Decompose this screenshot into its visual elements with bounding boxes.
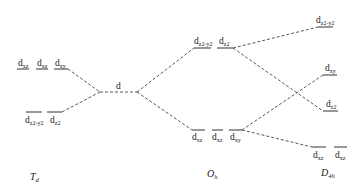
label-td-upper-2: dxz xyxy=(37,58,48,69)
label-free-d: d xyxy=(116,81,121,91)
td-lower-levels: dz2-y2 dz2 xyxy=(25,112,62,126)
oh-upper-levels: dz2-y2 dz2 xyxy=(194,36,233,48)
label-d4h-bottom-1: dxz xyxy=(313,150,324,161)
label-td-lower-1: dz2-y2 xyxy=(25,115,43,126)
d4h-levels: dz2-y2 dxy dz2 dxz dxz xyxy=(312,15,347,161)
label-d4h-mid2: dz2 xyxy=(326,99,336,110)
splitting-diagram: dxz dxz dxy dz2-y2 dz2 d dz2-y2 dz2 dxz … xyxy=(0,0,361,191)
group-label-oh: Oh xyxy=(207,168,217,180)
connector-free-oh-lower xyxy=(137,92,192,130)
free-ion-level: d xyxy=(100,81,137,92)
label-d4h-mid1: dxy xyxy=(325,63,336,74)
label-d4h-top: dz2-y2 xyxy=(316,15,334,26)
label-oh-lower-2: dxz xyxy=(212,132,223,143)
connector-td-upper-free xyxy=(68,69,100,92)
label-d4h-bottom-2: dxz xyxy=(335,150,346,161)
oh-lower-levels: dxz dxz dxy xyxy=(192,130,242,143)
td-upper-levels: dxz dxz dxy xyxy=(17,58,68,69)
connector-oh-upper-d4h-mid2 xyxy=(233,48,323,111)
label-oh-upper-2: dz2 xyxy=(219,36,229,47)
label-td-lower-2: dz2 xyxy=(50,115,60,126)
connectors xyxy=(62,27,323,147)
label-td-upper-3: dxy xyxy=(55,58,66,69)
connector-free-oh-upper xyxy=(137,48,194,92)
group-label-d4h: D4h xyxy=(320,167,335,179)
group-labels: Td Oh D4h xyxy=(30,167,335,183)
connector-oh-upper-d4h-top xyxy=(233,27,318,48)
connector-oh-lower-d4h-bottom xyxy=(242,130,312,147)
group-label-td: Td xyxy=(30,171,40,183)
label-oh-upper-1: dz2-y2 xyxy=(194,36,212,47)
label-oh-lower-3: dxy xyxy=(230,132,241,143)
connector-td-lower-free xyxy=(62,92,100,112)
label-oh-lower-1: dxz xyxy=(192,132,203,143)
label-td-upper-1: dxz xyxy=(18,58,29,69)
